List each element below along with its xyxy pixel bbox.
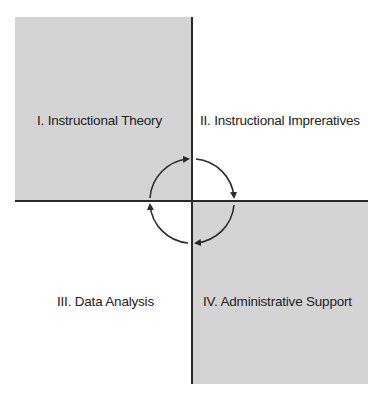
- arrow-top-right-icon: [196, 159, 234, 197]
- cycle-arrows-icon: [0, 0, 380, 398]
- arrow-top-left-icon: [150, 159, 188, 198]
- arrow-bottom-right-icon: [196, 205, 234, 243]
- arrow-bottom-left-icon: [150, 205, 188, 243]
